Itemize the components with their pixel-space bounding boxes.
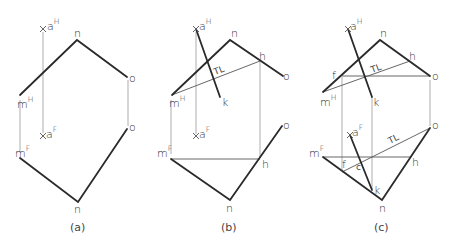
true-length-line-mh bbox=[323, 61, 410, 92]
label-mH: mH bbox=[169, 94, 185, 110]
descriptive-geometry-figure: aH n o mH aF o mF n (a) aH n h o TL mH k… bbox=[0, 0, 455, 242]
label-k: k bbox=[222, 96, 229, 109]
top-view-mno bbox=[172, 40, 283, 95]
label-mF: mF bbox=[15, 144, 30, 160]
label-n-top: n bbox=[231, 27, 238, 40]
label-aH: aH bbox=[47, 17, 59, 33]
front-view-mno bbox=[20, 129, 127, 202]
label-true-length-top: TL bbox=[368, 62, 382, 75]
label-o-bottom: o bbox=[283, 119, 290, 132]
panel-b: aH n h o TL mH k aF o mF h n (b) bbox=[157, 17, 290, 234]
label-aH: aH bbox=[199, 17, 211, 33]
label-k-bottom: k bbox=[374, 184, 381, 197]
label-o-top: o bbox=[432, 70, 439, 83]
label-h-top: h bbox=[409, 50, 416, 63]
label-h-bottom: h bbox=[412, 156, 419, 169]
label-mH: mH bbox=[17, 95, 33, 111]
label-mF: mF bbox=[309, 144, 324, 160]
label-h-top: h bbox=[259, 50, 266, 63]
panel-a: aH n o mH aF o mF n (a) bbox=[15, 17, 136, 234]
diagram-canvas: aH n o mH aF o mF n (a) aH n h o TL mH k… bbox=[0, 0, 455, 242]
label-mF: mF bbox=[157, 144, 172, 160]
label-mH: mH bbox=[320, 93, 336, 109]
caption-b: (b) bbox=[221, 221, 237, 234]
line-ak-top bbox=[348, 29, 372, 97]
label-n-bottom: n bbox=[226, 202, 233, 215]
label-aF: aF bbox=[199, 125, 210, 141]
label-n-top: n bbox=[74, 27, 81, 40]
line-ak-top bbox=[196, 29, 220, 97]
label-o-top: o bbox=[129, 72, 136, 85]
label-f-bottom: f bbox=[342, 158, 346, 171]
line-ak-front bbox=[350, 135, 372, 190]
label-o-bottom: o bbox=[432, 119, 439, 132]
caption-c: (c) bbox=[374, 221, 389, 234]
label-n-bottom: n bbox=[379, 202, 386, 215]
label-o-bottom: o bbox=[129, 121, 136, 134]
panel-c: aH n h f o TL mH k aF o TL mF f c h k n … bbox=[309, 17, 439, 234]
label-n-bottom: n bbox=[74, 203, 81, 216]
label-aH: aH bbox=[350, 17, 362, 33]
label-mark-c: c bbox=[356, 162, 361, 172]
label-o-top: o bbox=[283, 70, 290, 83]
label-h-bottom: h bbox=[262, 158, 269, 171]
label-aF: aF bbox=[46, 125, 57, 141]
label-n-top: n bbox=[380, 27, 387, 40]
top-view-mno bbox=[20, 40, 127, 95]
label-f-top: f bbox=[332, 69, 336, 82]
label-k-top: k bbox=[373, 96, 380, 109]
label-aF: aF bbox=[352, 123, 363, 139]
cross-aH-icon bbox=[40, 26, 46, 32]
caption-a: (a) bbox=[70, 221, 85, 234]
